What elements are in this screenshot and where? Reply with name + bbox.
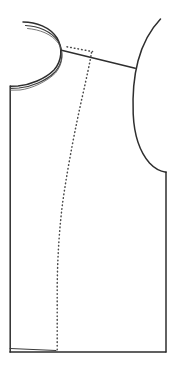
drawing-background [0,0,183,369]
pattern-diagram-figure: Bodice front pattern block Line drawing … [0,0,183,369]
pattern-drawing-canvas: Bodice front pattern block Line drawing … [0,0,183,369]
